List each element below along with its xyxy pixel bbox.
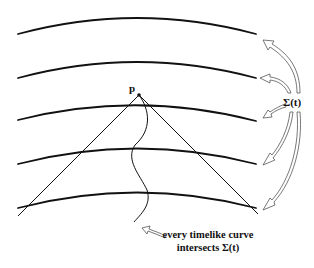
arrow-to-surface-4-icon — [263, 112, 293, 165]
past-light-cone-left — [18, 95, 139, 216]
hypersurface-2 — [18, 62, 256, 78]
arrow-to-surface-2-icon — [260, 74, 291, 93]
sigma-label: Σ(t) — [283, 96, 301, 108]
arrow-to-surface-1-icon — [263, 40, 300, 93]
point-p-label: p — [129, 82, 135, 94]
hypersurface-3 — [18, 105, 256, 121]
caption: every timelike curve intersects Σ(t) — [138, 228, 278, 254]
caption-line-2: intersects Σ(t) — [138, 241, 278, 254]
timelike-curve — [132, 95, 149, 222]
caption-line-1: every timelike curve — [138, 228, 278, 241]
hypersurface-1 — [18, 18, 256, 34]
hypersurface-5 — [18, 193, 256, 209]
hypersurface-4 — [18, 149, 256, 165]
point-p — [137, 93, 141, 97]
